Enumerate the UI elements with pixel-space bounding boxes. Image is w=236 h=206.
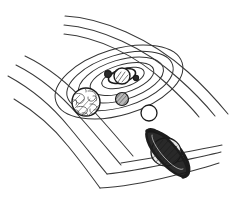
plain-white-planet-disc: [141, 105, 157, 121]
inner-planet-small-dark: [133, 75, 138, 80]
arc-left-2: [16, 65, 121, 165]
plain-white-planet: [141, 105, 157, 121]
arc-bottom-3: [100, 163, 219, 188]
inner-planet-dark: [105, 71, 112, 78]
marbled-planet: [72, 88, 100, 117]
illustration-canvas: [0, 0, 236, 206]
inner-planet-dark-disc: [105, 71, 112, 78]
grey-hatched-planet-disc: [116, 93, 129, 106]
inner-planet-small-dark-disc: [133, 75, 138, 80]
grey-hatched-planet: [115, 93, 129, 107]
solar-system-illustration: Hand-drawn solar system sketch: [0, 0, 236, 206]
ringed-planet: [146, 129, 188, 177]
